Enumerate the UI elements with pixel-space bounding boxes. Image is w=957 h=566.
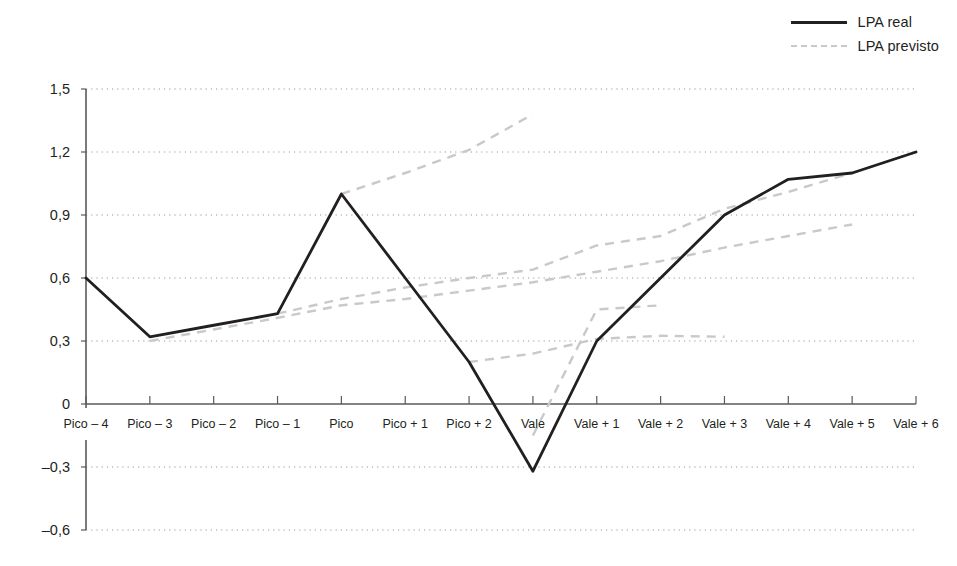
y-axis-tick-label: 1,2 [50,144,70,160]
y-axis-tick-label: 1,5 [50,81,70,97]
x-axis-tick-label: Pico – 1 [255,417,300,431]
chart-container: LPA real LPA previsto 1,51,20,90,60,30–0… [0,0,957,566]
y-axis-labels-group: 1,51,20,90,60,30–0,3–0,6 [42,81,70,538]
y-axis-tick-label: 0 [62,396,70,412]
forecast-line-forecast-from-vale [533,305,661,435]
x-axis-tick-label: Pico + 1 [382,417,428,431]
forecast-line-forecast-from-pico [341,114,533,194]
series-lpa-previsto [150,114,916,435]
x-axis-tick-label: Vale [521,417,545,431]
y-axis-tick-label: 0,6 [50,270,70,286]
y-axis-tick-label: 0,3 [50,333,70,349]
x-axis-tick-label: Vale + 1 [574,417,619,431]
y-axis-tick-label: –0,6 [42,522,70,538]
x-axis-tick-label: Vale + 4 [766,417,811,431]
y-axis-tick-label: –0,3 [42,459,70,475]
x-axis-tick-label: Vale + 5 [830,417,875,431]
x-axis-tick-label: Pico – 3 [127,417,172,431]
chart-plot-area: 1,51,20,90,60,30–0,3–0,6 Pico – 4Pico – … [0,0,957,566]
x-axis-tick-label: Pico – 4 [63,417,108,431]
x-axis-tick-label: Pico – 2 [191,417,236,431]
forecast-line-forecast-from-pico-3 [150,224,852,341]
x-axis-ticks-group [86,396,916,404]
x-axis-tick-label: Vale + 2 [638,417,683,431]
x-axis-tick-label: Vale + 3 [702,417,747,431]
gridlines-group [86,89,916,530]
x-axis-tick-label: Pico + 2 [446,417,492,431]
x-axis-tick-label: Pico [329,417,353,431]
axes-group [81,89,916,530]
y-axis-tick-label: 0,9 [50,207,70,223]
x-axis-tick-label: Vale + 6 [893,417,938,431]
